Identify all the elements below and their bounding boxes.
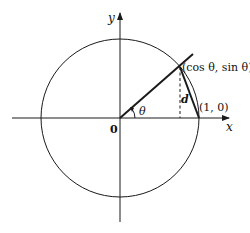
origin-label: 0 <box>110 123 118 136</box>
y-axis-label: y <box>107 11 115 25</box>
angle-theta-label: θ <box>139 105 146 118</box>
x-axis-label: x <box>226 120 233 134</box>
chord-d-label: d <box>181 93 189 106</box>
unit-circle-diagram: y x 0 θ (cos θ, sin θ) (1, 0) d <box>0 0 250 233</box>
point-one-zero-label: (1, 0) <box>199 101 229 114</box>
point-cos-sin-label: (cos θ, sin θ) <box>182 61 250 74</box>
